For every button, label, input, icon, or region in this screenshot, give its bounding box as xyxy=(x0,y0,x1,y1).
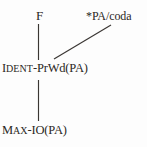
constraint-node-star-pa-coda: *PA/coda xyxy=(86,10,131,22)
constraint-node-ident-prwd-pa: IDENT-PrWd(PA) xyxy=(2,62,88,75)
constraint-node-f-label: F xyxy=(36,8,43,23)
constraint-node-max-smallcaps: AX xyxy=(13,125,28,136)
edge-pa-coda-to-ident xyxy=(54,25,111,59)
constraint-node-max-lead: M xyxy=(2,123,13,137)
constraint-node-star-pa-coda-label: *PA/coda xyxy=(86,9,131,23)
constraint-node-ident-smallcaps: DENT xyxy=(6,63,33,74)
constraint-node-ident-tail: -PrWd(PA) xyxy=(33,61,88,75)
constraint-node-f: F xyxy=(36,9,43,22)
constraint-ranking-diagram: F *PA/coda IDENT-PrWd(PA) MAX-IO(PA) xyxy=(0,0,147,147)
constraint-node-max-tail-io: -IO xyxy=(28,123,45,137)
constraint-node-max-tail: (PA) xyxy=(44,123,66,137)
constraint-node-max-io-pa: MAX-IO(PA) xyxy=(2,124,67,137)
